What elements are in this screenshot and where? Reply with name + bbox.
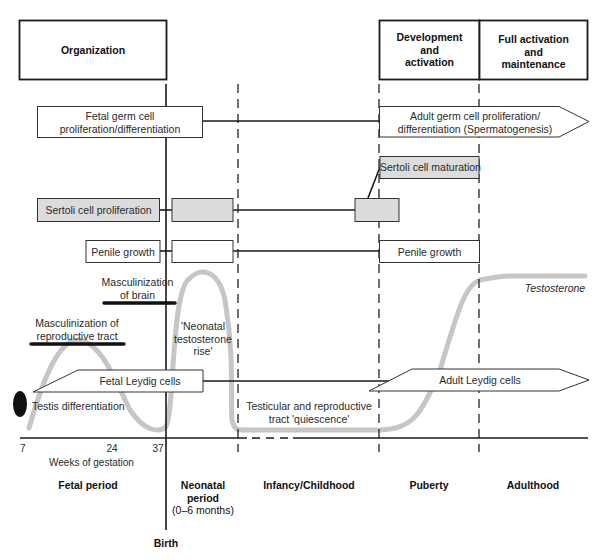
quiescence-line1: Testicular and reproductive xyxy=(244,400,374,413)
period-neonatal-line3: (0–6 months) xyxy=(168,504,238,517)
full-activation-label: Full activation and maintenance xyxy=(479,33,588,71)
testis-differentiation-label: Testis differentiation xyxy=(32,400,125,413)
fetal-germ-cell-line2: proliferation/differentiation xyxy=(37,123,203,136)
organization-label: Organization xyxy=(19,44,167,57)
period-infancy: Infancy/Childhood xyxy=(240,479,378,492)
masculinization-repro-line2: reproductive tract xyxy=(28,330,126,343)
development-label-line3: activation xyxy=(379,56,480,69)
sertoli-maturation-label: Sertoli cell maturation xyxy=(380,161,480,174)
axis-label: Weeks of gestation xyxy=(49,457,134,470)
tick-7: 7 xyxy=(20,443,26,456)
sertoli-neonatal-box xyxy=(172,199,233,222)
sertoli-maturation-connector xyxy=(368,167,380,198)
penile-growth-puberty-label: Penile growth xyxy=(379,246,480,259)
period-neonatal: Neonatal period (0–6 months) xyxy=(168,479,238,517)
period-neonatal-line2: period xyxy=(168,492,238,505)
birth-label: Birth xyxy=(140,537,192,550)
adult-leydig-label: Adult Leydig cells xyxy=(410,374,550,387)
tick-24: 24 xyxy=(104,443,120,456)
penile-growth-fetal-label: Penile growth xyxy=(86,246,160,259)
period-puberty: Puberty xyxy=(379,479,479,492)
period-fetal: Fetal period xyxy=(40,479,136,492)
full-activation-label-line2: and xyxy=(479,46,588,59)
development-label-line1: Development xyxy=(379,31,480,44)
masculinization-brain-line1: Masculinization xyxy=(100,276,175,289)
testosterone-label: Testosterone xyxy=(520,282,590,295)
sertoli-prepubertal-box xyxy=(355,199,399,222)
development-label-line2: and xyxy=(379,44,480,57)
penile-growth-neonatal-box xyxy=(172,241,233,263)
full-activation-label-line1: Full activation xyxy=(479,33,588,46)
quiescence-label: Testicular and reproductive tract 'quies… xyxy=(244,400,374,425)
period-adulthood: Adulthood xyxy=(479,479,587,492)
full-activation-label-line3: maintenance xyxy=(479,58,588,71)
quiescence-line2: tract 'quiescence' xyxy=(244,413,374,426)
masculinization-brain-line2: of brain xyxy=(100,289,175,302)
adult-germ-cell-line2: differentiation (Spermatogenesis) xyxy=(385,123,565,136)
masculinization-repro-line1: Masculinization of xyxy=(28,317,126,330)
fetal-germ-cell-label: Fetal germ cell proliferation/differenti… xyxy=(37,110,203,135)
fetal-leydig-label: Fetal Leydig cells xyxy=(80,375,200,388)
neonatal-rise-label: 'Neonatal testosterone rise' xyxy=(172,320,234,358)
adult-germ-cell-label: Adult germ cell proliferation/ different… xyxy=(385,110,565,135)
development-label: Development and activation xyxy=(379,31,480,69)
neonatal-rise-line2: testosterone xyxy=(172,333,234,346)
period-neonatal-line1: Neonatal xyxy=(168,479,238,492)
neonatal-rise-line3: rise' xyxy=(172,345,234,358)
tick-37: 37 xyxy=(150,443,166,456)
masculinization-brain-label: Masculinization of brain xyxy=(100,276,175,301)
sertoli-proliferation-label: Sertoli cell proliferation xyxy=(37,204,160,217)
adult-germ-cell-line1: Adult germ cell proliferation/ xyxy=(385,110,565,123)
fetal-germ-cell-line1: Fetal germ cell xyxy=(37,110,203,123)
diagram-canvas xyxy=(0,0,605,560)
neonatal-rise-line1: 'Neonatal xyxy=(172,320,234,333)
testis-differentiation-marker xyxy=(13,391,27,417)
masculinization-repro-label: Masculinization of reproductive tract xyxy=(28,317,126,342)
